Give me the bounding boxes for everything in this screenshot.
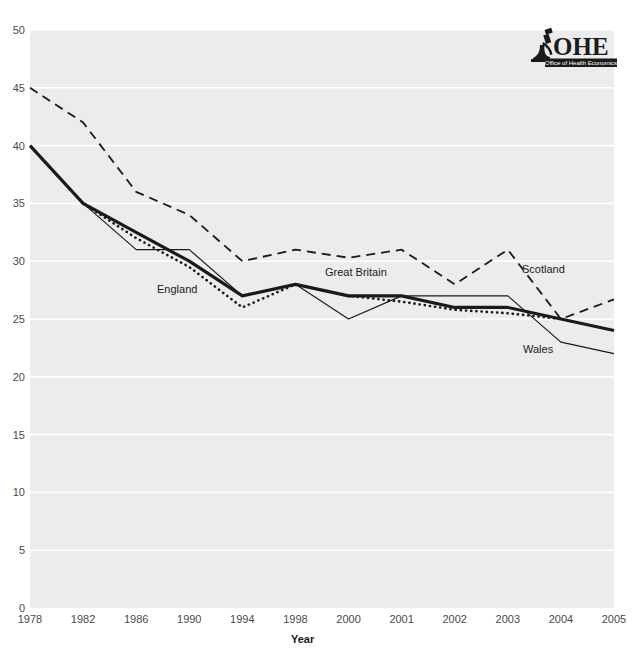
x-axis-tick-label: 2005 bbox=[591, 613, 632, 625]
x-axis-tick-label: 2004 bbox=[538, 613, 584, 625]
series-label-wales: Wales bbox=[523, 343, 553, 355]
series-label-england: England bbox=[157, 283, 197, 295]
ohe-logo-graphic: OHE Office of Health Economics bbox=[528, 27, 618, 69]
y-axis-tick-label: 45 bbox=[0, 83, 25, 93]
series-label-great-britain: Great Britain bbox=[325, 266, 387, 278]
series-label-scotland: Scotland bbox=[522, 263, 565, 275]
x-axis-tick-label: 1998 bbox=[272, 613, 318, 625]
x-axis-tick-label: 1978 bbox=[7, 613, 53, 625]
x-axis-tick-label: 1994 bbox=[219, 613, 265, 625]
x-axis-tick-label: 1982 bbox=[60, 613, 106, 625]
x-axis-tick-label: 2000 bbox=[326, 613, 372, 625]
x-axis-tick-label: 1986 bbox=[113, 613, 159, 625]
y-axis-tick-label: 0 bbox=[0, 603, 25, 613]
x-axis-tick-label: 2001 bbox=[379, 613, 425, 625]
y-axis-tick-label: 30 bbox=[0, 256, 25, 266]
ohe-tagline: Office of Health Economics bbox=[545, 60, 617, 66]
y-axis-tick-label: 5 bbox=[0, 545, 25, 555]
ohe-logo: OHE Office of Health Economics bbox=[528, 27, 618, 69]
chart-canvas: 50454035302520151050 1978198219861990199… bbox=[0, 0, 632, 656]
gridlines bbox=[30, 30, 614, 608]
series-line-great-britain bbox=[30, 146, 614, 331]
y-axis-tick-label: 40 bbox=[0, 141, 25, 151]
y-axis-tick-label: 20 bbox=[0, 372, 25, 382]
x-axis-title: Year bbox=[291, 633, 314, 645]
ohe-acronym: OHE bbox=[553, 33, 609, 60]
series-lines bbox=[30, 88, 614, 354]
y-axis-tick-label: 35 bbox=[0, 198, 25, 208]
y-axis-tick-label: 10 bbox=[0, 487, 25, 497]
x-axis-tick-label: 2003 bbox=[485, 613, 531, 625]
microscope-icon bbox=[531, 28, 553, 62]
x-axis-tick-label: 1990 bbox=[166, 613, 212, 625]
plot-svg bbox=[0, 0, 632, 656]
y-axis-tick-label: 50 bbox=[0, 25, 25, 35]
series-line-wales bbox=[83, 203, 614, 353]
x-axis-tick-label: 2002 bbox=[432, 613, 478, 625]
y-axis-tick-label: 25 bbox=[0, 314, 25, 324]
y-axis-tick-label: 15 bbox=[0, 430, 25, 440]
